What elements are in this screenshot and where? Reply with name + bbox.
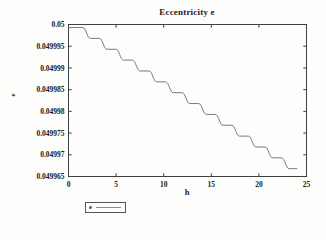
y-tick-label: 0.049985 xyxy=(36,85,64,94)
series-e-line xyxy=(69,28,297,169)
y-tick-label: 0.049965 xyxy=(36,172,64,181)
y-axis-label: e xyxy=(9,90,21,100)
legend-box: e xyxy=(85,202,126,213)
x-axis-label: h xyxy=(68,187,306,197)
y-tick-label: 0.04997 xyxy=(40,150,65,159)
y-tick-label: 0.049995 xyxy=(36,42,64,51)
legend-line-sample-icon xyxy=(96,207,121,208)
legend-entry-label: e xyxy=(89,204,92,211)
y-tick-label: 0.04998 xyxy=(40,107,65,116)
y-tick-label: 0.049975 xyxy=(36,129,64,138)
y-tick-label: 0.04999 xyxy=(40,64,65,73)
y-tick-label: 0.05 xyxy=(51,20,64,29)
